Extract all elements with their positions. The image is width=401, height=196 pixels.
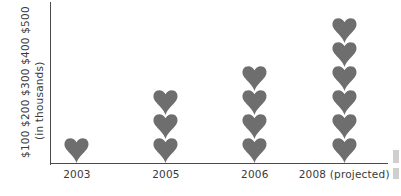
pictograph-column [314,19,374,163]
heart-icon [331,65,358,91]
heart-icon [241,137,268,163]
pictograph-column [47,139,107,163]
y-axis-label-group: $100 $200 $300 $400 $500 (in thousands) [0,0,50,165]
page-edge-artifact [393,150,399,163]
heart-icon [331,17,358,43]
x-axis-tick-labels: 2003200520062008 (projected) [51,168,388,190]
heart-icon [152,113,179,139]
heart-icon [331,137,358,163]
heart-icon [152,137,179,163]
heart-icon [241,89,268,115]
x-axis-tick-label: 2008 (projected) [299,168,390,180]
page-edge-artifact [393,168,399,179]
heart-icon [241,113,268,139]
x-axis-tick-label: 2005 [152,168,180,180]
heart-icon [331,41,358,67]
x-axis-line [50,163,388,164]
plot-area [51,0,388,163]
y-axis-units-label: (in thousands) [33,62,45,140]
x-axis-tick-label: 2003 [63,168,91,180]
heart-icon [331,89,358,115]
pictograph-column [225,67,285,163]
pictograph-chart: $100 $200 $300 $400 $500 (in thousands) … [0,0,401,196]
heart-icon [152,89,179,115]
heart-icon [241,65,268,91]
heart-icon [331,113,358,139]
y-axis-scale-label: $100 $200 $300 $400 $500 [19,6,31,158]
heart-icon [63,137,90,163]
pictograph-column [136,91,196,163]
x-axis-tick-label: 2006 [241,168,269,180]
